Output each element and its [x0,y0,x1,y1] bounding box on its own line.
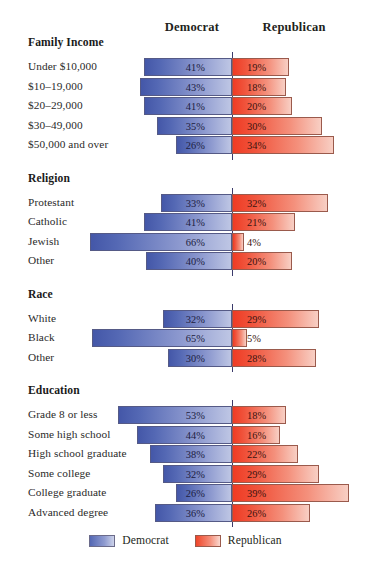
chart-row: White32%29% [0,310,371,329]
bar-value-democrat: 32% [186,313,205,324]
chart-row: $30–49,00035%30% [0,117,371,136]
bar-value-democrat: 53% [186,410,205,421]
row-label: Grade 8 or less [28,408,98,420]
row-label: High school graduate [28,447,127,459]
bar-democrat: 38% [150,445,232,463]
bar-value-republican: 32% [247,197,266,208]
row-label: Other [28,351,54,363]
bar-value-democrat: 26% [186,140,205,151]
row-label: $10–19,000 [28,80,83,92]
column-header-democrat: Democrat [151,20,233,35]
row-label: Under $10,000 [28,60,97,72]
bar-democrat: 32% [163,310,232,328]
bar-value-republican: 18% [247,81,266,92]
bar-democrat: 26% [176,484,232,502]
bar-republican: 29% [232,310,319,328]
row-label: Black [28,331,55,343]
bar-democrat: 66% [90,233,232,251]
bar-republican: 16% [232,426,280,444]
chart-row: $20–29,00041%20% [0,97,371,116]
row-label: Some high school [28,428,111,440]
bar-value-democrat: 30% [186,352,205,363]
row-label: $50,000 and over [28,138,108,150]
section-title: Education [28,384,80,397]
bar-democrat: 26% [176,136,232,154]
bar-value-democrat: 33% [186,197,205,208]
bar-value-republican: 29% [247,313,266,324]
row-label: Advanced degree [28,506,108,518]
bar-value-republican: 28% [247,352,266,363]
legend-item-republican: Republican [195,534,282,547]
bar-value-republican: 34% [247,140,266,151]
bar-value-republican: 4% [247,236,273,247]
bar-democrat: 65% [92,329,232,347]
row-label: $20–29,000 [28,99,83,111]
row-label: $30–49,000 [28,119,83,131]
row-label: Protestant [28,196,74,208]
bar-republican: 20% [232,252,292,270]
row-label: Other [28,254,54,266]
diverging-bar-chart: Democrat Republican Family IncomeUnder $… [0,0,371,571]
bar-republican: 20% [232,97,292,115]
bar-democrat: 43% [140,78,232,96]
bar-value-democrat: 66% [186,236,205,247]
row-label: Catholic [28,215,67,227]
bar-democrat: 41% [144,58,232,76]
bar-republican: 34% [232,136,334,154]
bar-republican: 29% [232,465,319,483]
bar-value-democrat: 36% [186,507,205,518]
chart-row: Grade 8 or less53%18% [0,406,371,425]
bar-democrat: 36% [155,504,232,522]
bar-republican: 30% [232,117,322,135]
chart-row: Black65%5% [0,329,371,348]
bar-value-democrat: 41% [186,101,205,112]
chart-row: Some college32%29% [0,465,371,484]
chart-row: $10–19,00043%18% [0,78,371,97]
bar-value-republican: 30% [247,120,266,131]
row-label: College graduate [28,486,106,498]
bar-value-democrat: 38% [186,449,205,460]
chart-row: Advanced degree36%26% [0,504,371,523]
chart-row: High school graduate38%22% [0,445,371,464]
bar-value-democrat: 41% [186,62,205,73]
bar-republican: 21% [232,213,295,231]
bar-democrat: 32% [163,465,232,483]
bar-republican: 19% [232,58,289,76]
bar-value-republican: 21% [247,217,266,228]
bar-republican: 22% [232,445,298,463]
bar-republican: 18% [232,406,286,424]
bar-value-democrat: 43% [186,81,205,92]
bar-value-republican: 29% [247,468,266,479]
bar-value-republican: 18% [247,410,266,421]
legend-label-republican: Republican [228,534,282,547]
bar-value-democrat: 41% [186,217,205,228]
chart-row: Other30%28% [0,349,371,368]
row-label: White [28,312,56,324]
bar-democrat: 53% [118,406,232,424]
bar-value-republican: 22% [247,449,266,460]
legend-swatch-republican-icon [195,535,221,547]
chart-row: Under $10,00041%19% [0,58,371,77]
legend-swatch-democrat-icon [89,535,115,547]
chart-row: College graduate26%39% [0,484,371,503]
chart-row: Jewish66%4% [0,233,371,252]
chart-row: $50,000 and over26%34% [0,136,371,155]
section-title: Race [28,288,53,301]
bar-democrat: 41% [144,97,232,115]
chart-row: Other40%20% [0,252,371,271]
bar-value-democrat: 32% [186,468,205,479]
bar-value-republican: 5% [247,333,276,344]
bar-value-republican: 39% [247,488,266,499]
bar-democrat: 40% [146,252,232,270]
bar-republican: 4% [232,233,244,251]
bar-republican: 5% [232,329,247,347]
chart-row: Some high school44%16% [0,426,371,445]
bar-republican: 39% [232,484,349,502]
chart-row: Catholic41%21% [0,213,371,232]
chart-row: Protestant33%32% [0,194,371,213]
section-title: Family Income [28,36,104,49]
bar-value-democrat: 40% [186,256,205,267]
row-label: Some college [28,467,90,479]
bar-democrat: 44% [137,426,232,444]
bar-democrat: 41% [144,213,232,231]
